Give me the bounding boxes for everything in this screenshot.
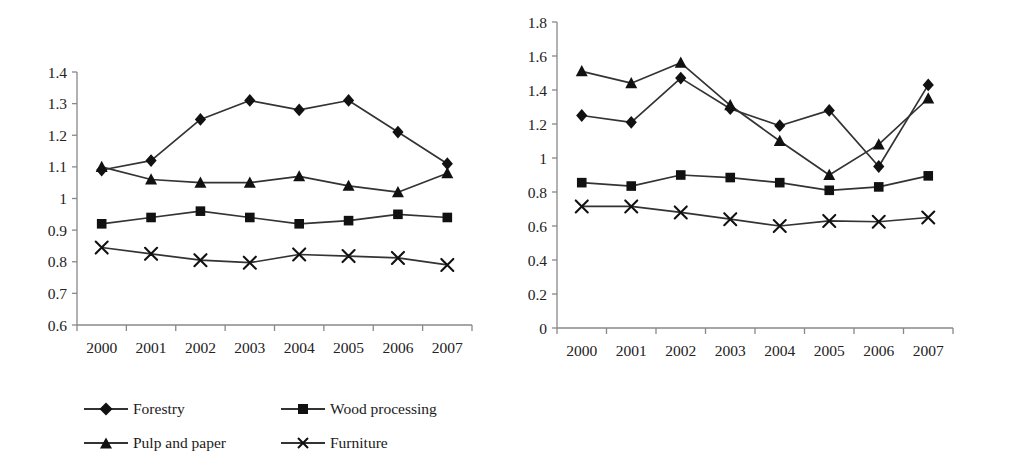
x-axis-tick-label: 2001 — [616, 342, 647, 359]
square-marker-icon — [281, 401, 325, 417]
diamond-marker-icon — [576, 109, 587, 122]
x-axis-tick-label: 2001 — [136, 339, 167, 356]
y-axis-tick-label: 1 — [539, 150, 547, 167]
series-furniture — [576, 200, 935, 232]
legend-item-pulp-and-paper[interactable]: Pulp and paper — [84, 435, 281, 451]
diamond-marker-icon — [244, 94, 255, 107]
y-axis-tick-label: 0.2 — [528, 286, 547, 303]
y-axis-tick-label: 1.1 — [48, 158, 67, 175]
y-axis-tick-label: 0.6 — [528, 218, 548, 235]
y-axis-tick-label: 0.8 — [528, 184, 548, 201]
triangle-marker-icon — [441, 167, 453, 178]
legend-label-pulp-and-paper: Pulp and paper — [133, 435, 226, 451]
legend-item-wood-processing[interactable]: Wood processing — [281, 401, 481, 417]
square-marker-icon — [97, 219, 107, 229]
legend-row: Pulp and paper Furniture — [84, 426, 484, 460]
square-marker-icon — [923, 171, 933, 181]
cross-marker-icon — [281, 435, 325, 451]
legend-label-forestry: Forestry — [133, 401, 185, 417]
y-axis-tick-label: 1 — [59, 190, 67, 207]
x-axis-tick-label: 2006 — [863, 342, 894, 359]
y-axis-tick-label: 0.6 — [48, 317, 68, 334]
line-chart-left: 1.41.31.21.110.90.80.70.6200020012002200… — [0, 0, 505, 380]
square-marker-icon — [824, 186, 834, 196]
x-axis-tick-label: 2004 — [764, 342, 795, 359]
square-marker-icon — [725, 173, 735, 183]
y-axis-tick-label: 0.7 — [48, 285, 68, 302]
legend-label-furniture: Furniture — [330, 435, 388, 451]
x-axis-tick-label: 2005 — [814, 342, 845, 359]
triangle-marker-icon — [576, 65, 588, 76]
x-axis-tick-label: 2006 — [382, 339, 413, 356]
square-marker-icon — [245, 213, 255, 223]
y-axis-tick-label: 1.4 — [48, 64, 68, 81]
x-axis-tick-label: 2002 — [185, 339, 216, 356]
diamond-marker-icon — [145, 154, 156, 167]
series-forestry — [96, 94, 453, 176]
triangle-marker-icon — [922, 92, 934, 103]
x-axis-tick-label: 2007 — [913, 342, 944, 359]
x-axis-tick-label: 2002 — [665, 342, 696, 359]
square-marker-icon — [294, 219, 304, 229]
triangle-marker-icon — [96, 161, 108, 172]
triangle-marker-icon — [823, 169, 835, 180]
figure-two-line-charts: 1.41.31.21.110.90.80.70.6200020012002200… — [0, 0, 1011, 475]
x-axis-tick-label: 2000 — [566, 342, 597, 359]
y-axis-tick-label: 1.2 — [48, 127, 67, 144]
y-axis-tick-label: 1.8 — [528, 14, 548, 31]
square-marker-icon — [344, 216, 354, 226]
y-axis-tick-label: 1.2 — [528, 116, 547, 133]
square-marker-icon — [874, 182, 884, 192]
y-axis-tick-label: 0 — [539, 320, 547, 337]
diamond-marker-icon — [294, 104, 305, 117]
triangle-marker-icon — [84, 435, 128, 451]
diamond-marker-icon — [84, 401, 128, 417]
series-wood-processing — [577, 170, 933, 195]
chart-panel-right: 1.81.61.41.210.80.60.40.2020002001200220… — [506, 0, 1011, 475]
legend-row: Forestry Wood processing — [84, 392, 484, 426]
diamond-marker-icon — [774, 119, 785, 132]
legend-label-wood-processing: Wood processing — [330, 401, 437, 417]
triangle-marker-icon — [675, 57, 687, 68]
legend-item-furniture[interactable]: Furniture — [281, 435, 481, 451]
y-axis-tick-label: 0.4 — [528, 252, 548, 269]
x-axis-tick-label: 2007 — [432, 339, 463, 356]
diamond-marker-icon — [343, 94, 354, 107]
diamond-marker-icon — [392, 126, 403, 139]
triangle-marker-icon — [774, 135, 786, 146]
square-marker-icon — [393, 210, 403, 220]
square-marker-icon — [626, 181, 636, 191]
square-marker-icon — [676, 170, 686, 180]
square-marker-icon — [577, 178, 587, 188]
x-axis-tick-label: 2003 — [234, 339, 265, 356]
triangle-marker-icon — [293, 170, 305, 181]
x-axis-tick-label: 2003 — [715, 342, 746, 359]
y-axis-tick-label: 1.4 — [528, 82, 548, 99]
y-axis-tick-label: 0.9 — [48, 222, 68, 239]
square-marker-icon — [443, 213, 453, 223]
y-axis-tick-label: 1.6 — [528, 48, 548, 65]
y-axis-tick-label: 0.8 — [48, 253, 68, 270]
series-wood-processing — [97, 206, 452, 228]
legend-left: Forestry Wood processing Pulp and — [84, 392, 484, 460]
x-axis-tick-label: 2005 — [333, 339, 364, 356]
chart-panel-left: 1.41.31.21.110.90.80.70.6200020012002200… — [0, 0, 505, 475]
x-axis-tick-label: 2004 — [284, 339, 315, 356]
series-pulp-and-paper — [96, 161, 454, 198]
square-marker-icon — [775, 178, 785, 188]
square-marker-icon — [146, 213, 156, 223]
square-marker-icon — [196, 206, 206, 216]
diamond-marker-icon — [923, 79, 934, 92]
diamond-marker-icon — [195, 113, 206, 126]
legend-item-forestry[interactable]: Forestry — [84, 401, 281, 417]
series-furniture — [96, 242, 454, 271]
y-axis-tick-label: 1.3 — [48, 95, 68, 112]
line-chart-right: 1.81.61.41.210.80.60.40.2020002001200220… — [506, 0, 1011, 380]
x-axis-tick-label: 2000 — [86, 339, 117, 356]
